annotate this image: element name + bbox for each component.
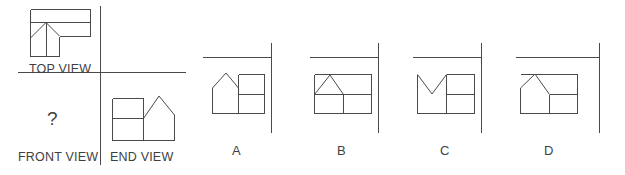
option-c-notch-left xyxy=(418,75,433,95)
end-view-roof-left xyxy=(144,96,160,119)
option-d-roof-right xyxy=(535,74,550,95)
option-a-roof-left xyxy=(213,73,227,88)
option-letter-b[interactable]: B xyxy=(337,143,346,158)
option-a-figure[interactable] xyxy=(203,43,272,133)
option-b-peak-left xyxy=(315,75,331,95)
top-view-figure xyxy=(31,10,91,57)
top-view-diagonal-right xyxy=(46,23,60,37)
option-d-roof-left xyxy=(521,74,536,88)
option-c-figure[interactable] xyxy=(413,43,482,133)
option-letter-d[interactable]: D xyxy=(544,143,553,158)
option-a-roof-right xyxy=(226,73,239,88)
option-c-notch-right xyxy=(432,75,447,95)
option-b-peak-right xyxy=(330,75,344,95)
option-b-figure[interactable] xyxy=(310,43,379,133)
option-d-figure[interactable] xyxy=(516,43,600,133)
top-view-diagonal-left xyxy=(31,23,47,39)
end-view-figure xyxy=(113,96,175,141)
orthographic-projection-puzzle: TOP VIEW ? FRONT VIEW END VIEW A B C D xyxy=(0,0,625,175)
option-letter-c[interactable]: C xyxy=(440,143,449,158)
option-letter-a[interactable]: A xyxy=(232,143,241,158)
top-view-label: TOP VIEW xyxy=(29,62,91,76)
drawing-canvas xyxy=(0,0,625,175)
projection-axes xyxy=(18,6,186,165)
end-view-roof-right xyxy=(159,96,175,115)
front-view-placeholder: ? xyxy=(47,108,58,130)
front-view-label: FRONT VIEW xyxy=(18,150,98,164)
end-view-label: END VIEW xyxy=(110,150,173,164)
